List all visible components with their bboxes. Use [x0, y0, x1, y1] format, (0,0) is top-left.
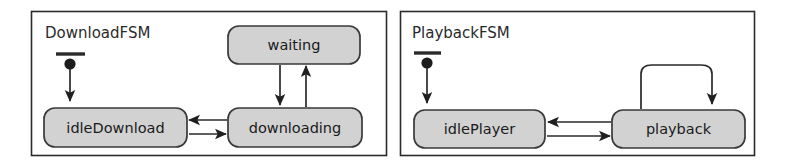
- initial-state-dot-icon: [421, 57, 432, 68]
- panel-playback-fsm: PlaybackFSM idlePlayer playback: [401, 12, 755, 156]
- diagram-canvas: DownloadFSM idleDownload downloading wai…: [0, 0, 787, 167]
- state-label-playback: playback: [646, 121, 712, 137]
- state-waiting[interactable]: waiting: [228, 26, 360, 64]
- state-label-idleDownload: idleDownload: [66, 120, 164, 136]
- panel-title-download-fsm: DownloadFSM: [45, 24, 150, 42]
- state-label-idlePlayer: idlePlayer: [444, 121, 515, 137]
- state-label-waiting: waiting: [268, 37, 321, 53]
- panel-download-fsm: DownloadFSM idleDownload downloading wai…: [32, 12, 387, 156]
- state-downloading[interactable]: downloading: [228, 108, 362, 147]
- state-label-downloading: downloading: [249, 120, 342, 136]
- initial-state-dot-icon: [64, 58, 75, 69]
- state-machine-diagram: DownloadFSM idleDownload downloading wai…: [0, 0, 787, 167]
- state-playback[interactable]: playback: [612, 110, 745, 148]
- state-idleDownload[interactable]: idleDownload: [44, 108, 187, 147]
- panel-title-playback-fsm: PlaybackFSM: [412, 24, 510, 42]
- state-idlePlayer[interactable]: idlePlayer: [414, 110, 545, 148]
